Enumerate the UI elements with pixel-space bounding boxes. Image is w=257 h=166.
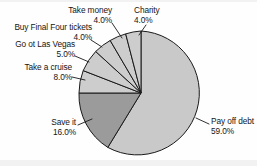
label-pay-off-debt-percent: 59.0% xyxy=(211,126,235,136)
scan-edge-bottom xyxy=(0,160,257,166)
pie-chart-figure: Take money 4.0% Charity 4.0% Buy Final F… xyxy=(0,0,257,166)
label-take-money-percent: 4.0% xyxy=(93,15,112,25)
label-charity-name: Charity xyxy=(134,5,161,15)
leader-line-take-money xyxy=(112,23,122,38)
label-take-a-cruise-percent: 8.0% xyxy=(53,72,72,82)
leader-line-buy-final-four-tickets xyxy=(91,40,102,47)
label-buy-final-four-tickets-name: Buy Final Four tickets xyxy=(14,22,92,32)
label-go-to-las-vegas-name: Go ot Las Vegas xyxy=(15,39,75,49)
label-pay-off-debt-name: Pay off debt xyxy=(211,116,255,126)
label-take-a-cruise-name: Take a cruise xyxy=(24,62,72,72)
label-buy-final-four-tickets-percent: 4.0% xyxy=(73,32,92,42)
leader-line-pay-off-debt xyxy=(196,118,209,124)
label-charity-percent: 4.0% xyxy=(134,15,153,25)
pie-chart-svg: Take money 4.0% Charity 4.0% Buy Final F… xyxy=(0,0,257,166)
scan-edge-top xyxy=(0,0,257,2)
label-take-money-name: Take money xyxy=(68,5,113,15)
leader-line-go-to-las-vegas xyxy=(75,56,89,62)
label-go-to-las-vegas-percent: 5.0% xyxy=(56,49,75,59)
label-save-it-name: Save it xyxy=(51,117,76,127)
label-save-it-percent: 16.0% xyxy=(53,127,77,137)
